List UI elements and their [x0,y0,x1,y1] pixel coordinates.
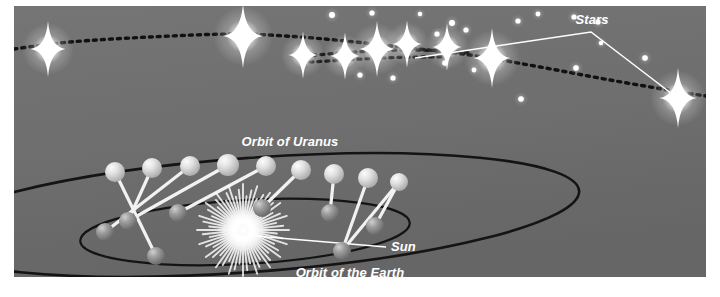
uranus-position-marker [180,156,200,176]
earth-position-marker [366,217,384,235]
diagram-canvas: Stars Orbit of Uranus Orbit of the Earth… [0,0,720,297]
faint-star [329,12,335,18]
faint-star [463,27,468,32]
bright-star-core [299,51,306,58]
bright-star-core [238,31,248,41]
earth-position-marker [119,212,137,230]
uranus-position-marker [390,173,408,191]
astronomy-diagram: Stars Orbit of Uranus Orbit of the Earth… [0,0,720,297]
uranus-position-marker [105,162,125,182]
bright-star-core [44,45,53,54]
faint-star [642,55,648,61]
faint-star [449,20,455,26]
uranus-position-marker [358,168,378,188]
uranus-position-marker [256,156,276,176]
faint-star [390,75,395,80]
faint-star [418,12,422,16]
label-orbit-of-uranus: Orbit of Uranus [242,134,339,149]
uranus-position-marker [324,164,344,184]
earth-position-marker [253,199,271,217]
label-sun: Sun [391,239,416,254]
bright-star-core [403,40,410,47]
bright-star-core [373,45,382,54]
faint-star [536,12,541,17]
earth-position-marker [321,204,339,222]
faint-star [573,65,579,71]
earth-position-marker [147,247,165,265]
bright-star-core [487,53,497,63]
label-stars: Stars [575,12,608,27]
uranus-position-marker [291,160,311,180]
label-orbit-of-the-earth: Orbit of the Earth [296,265,405,280]
bright-star-core [341,52,348,59]
faint-star [518,96,524,102]
faint-star [369,10,374,15]
earth-position-marker [96,223,114,241]
bright-star-core [673,93,683,103]
uranus-position-marker [217,154,239,176]
faint-star [515,18,520,23]
earth-position-marker [169,204,187,222]
earth-position-marker [333,242,351,260]
bright-star-core [443,43,450,50]
uranus-position-marker [142,158,162,178]
